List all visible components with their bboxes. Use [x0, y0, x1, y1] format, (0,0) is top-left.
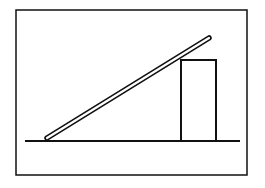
background: [0, 0, 265, 188]
support-block: [181, 60, 216, 141]
diagram-canvas: [0, 0, 265, 188]
